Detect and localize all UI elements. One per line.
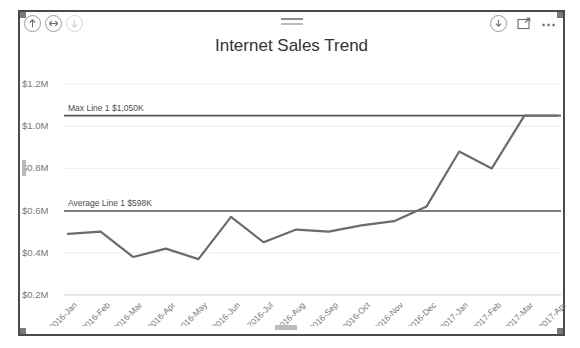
corner-handle-bottom-right[interactable] <box>557 328 563 334</box>
drill-down-icon[interactable] <box>66 15 83 32</box>
max-line-label: Max Line 1 $1,050K <box>68 103 144 113</box>
filter-icon[interactable] <box>490 15 507 32</box>
y-axis-tick-label: $1.0M <box>22 120 48 131</box>
average-line-label: Average Line 1 $598K <box>68 198 152 208</box>
corner-handle-bottom-left[interactable] <box>20 328 26 334</box>
horizontal-scrollbar-thumb[interactable] <box>275 325 297 330</box>
focus-mode-icon[interactable] <box>516 16 532 32</box>
chart-title: Internet Sales Trend <box>20 36 563 56</box>
drill-down-expand-icon[interactable] <box>45 15 62 32</box>
chart-plot-area: $1.2M$1.0M$0.8M$0.6M$0.4M$0.2M 2016-Jan2… <box>20 58 563 334</box>
visual-actions-group: ⋯ <box>490 15 557 32</box>
power-bi-visual-container: ⋯ Internet Sales Trend $1.2M$1.0M$0.8M$0… <box>18 10 565 336</box>
reference-lines-group <box>64 116 561 211</box>
y-axis-tick-label: $1.2M <box>22 78 48 89</box>
y-axis-tick-label: $0.4M <box>22 247 48 258</box>
drill-up-icon[interactable] <box>24 15 41 32</box>
more-options-icon[interactable]: ⋯ <box>541 19 557 29</box>
visual-header: ⋯ <box>20 12 563 38</box>
drag-handle-icon[interactable] <box>281 18 303 28</box>
corner-handle-top-left[interactable] <box>20 12 26 18</box>
horizontal-scrollbar-track[interactable] <box>22 326 561 332</box>
series-lines-group <box>68 116 557 259</box>
corner-handle-top-right[interactable] <box>557 12 563 18</box>
series-line[interactable] <box>68 116 557 259</box>
drill-controls-group <box>24 15 83 32</box>
vertical-scrollbar-thumb[interactable] <box>22 160 26 176</box>
y-axis-tick-label: $0.6M <box>22 205 48 216</box>
line-chart-svg <box>20 58 563 334</box>
y-axis-tick-label: $0.2M <box>22 289 48 300</box>
